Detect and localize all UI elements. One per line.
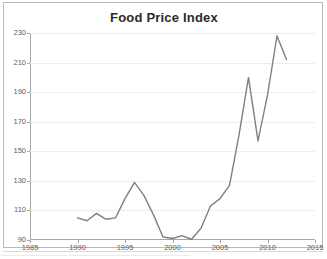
- page-edge-rule: [0, 255, 190, 256]
- chart-screenshot: Food Price Index 90110130150170190210230…: [0, 0, 327, 259]
- x-axis-tick-mark: [173, 240, 174, 243]
- x-axis-tick-mark: [268, 240, 269, 243]
- y-axis-tick-label: 110: [14, 207, 26, 215]
- x-axis-tick-mark: [315, 240, 316, 243]
- y-axis-tick-label: 150: [13, 148, 26, 156]
- chart-frame: Food Price Index 90110130150170190210230…: [3, 2, 323, 248]
- y-axis-tick-label: 210: [13, 59, 26, 67]
- x-axis-tick-mark: [125, 240, 126, 243]
- plot-area: 90110130150170190210230 1985199019952000…: [30, 33, 315, 240]
- series-line-food-price-index: [30, 33, 315, 240]
- y-axis-tick-label: 130: [13, 177, 26, 185]
- frame-bottom-rule: [3, 251, 323, 252]
- y-axis-tick-label: 230: [13, 29, 26, 37]
- x-axis-tick-mark: [78, 240, 79, 243]
- x-axis-tick-mark: [30, 240, 31, 243]
- y-axis-tick-label: 170: [13, 118, 26, 126]
- x-axis-tick-mark: [220, 240, 221, 243]
- chart-title: Food Price Index: [4, 10, 324, 25]
- y-axis-tick-label: 190: [13, 88, 26, 96]
